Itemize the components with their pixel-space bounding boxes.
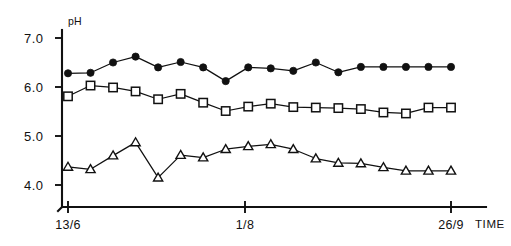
data-point-open-triangle-17 bbox=[424, 166, 433, 174]
data-point-open-square-2 bbox=[86, 81, 94, 89]
data-point-filled-circle-6 bbox=[177, 58, 184, 65]
chart-canvas: pH 7.0 6.0 5.0 4.0 13/6 1/8 26/9 TIME bbox=[0, 0, 511, 246]
series-filled-circle bbox=[64, 53, 454, 85]
data-point-filled-circle-14 bbox=[357, 63, 364, 70]
series-line-open-square bbox=[68, 86, 451, 114]
x-tick-label-start: 13/6 bbox=[55, 218, 81, 232]
x-tick-label-end: 26/9 bbox=[438, 218, 464, 232]
y-tick-label-5: 5.0 bbox=[24, 129, 43, 144]
data-point-open-square-1 bbox=[64, 92, 72, 100]
data-point-open-square-4 bbox=[131, 87, 139, 95]
data-point-filled-circle-2 bbox=[87, 69, 94, 76]
y-tick-label-6: 6.0 bbox=[24, 80, 43, 95]
data-point-open-triangle-1 bbox=[63, 162, 72, 170]
data-point-open-square-3 bbox=[109, 83, 117, 91]
data-point-filled-circle-1 bbox=[64, 70, 71, 77]
x-axis-label: TIME bbox=[475, 218, 505, 230]
data-point-open-square-11 bbox=[289, 103, 297, 111]
data-point-filled-circle-3 bbox=[109, 59, 116, 66]
series-open-triangle bbox=[63, 138, 455, 181]
y-axis-label: pH bbox=[68, 15, 82, 27]
data-point-filled-circle-12 bbox=[312, 59, 319, 66]
data-point-filled-circle-5 bbox=[155, 64, 162, 71]
data-point-filled-circle-18 bbox=[447, 63, 454, 70]
series-line-open-triangle bbox=[68, 142, 451, 177]
data-point-open-triangle-12 bbox=[311, 154, 320, 162]
data-point-open-square-15 bbox=[379, 108, 387, 116]
data-point-filled-circle-4 bbox=[132, 53, 139, 60]
x-axis-spine bbox=[58, 207, 486, 211]
data-point-open-square-12 bbox=[312, 103, 320, 111]
data-point-filled-circle-11 bbox=[290, 67, 297, 74]
data-point-open-square-17 bbox=[424, 103, 432, 111]
data-point-open-triangle-6 bbox=[176, 151, 185, 159]
data-point-open-triangle-4 bbox=[131, 138, 140, 146]
data-point-open-triangle-3 bbox=[108, 151, 117, 159]
data-point-open-square-6 bbox=[176, 90, 184, 98]
data-point-filled-circle-13 bbox=[335, 69, 342, 76]
x-tick-label-middle: 1/8 bbox=[236, 218, 254, 232]
data-point-filled-circle-9 bbox=[245, 64, 252, 71]
data-point-filled-circle-10 bbox=[267, 65, 274, 72]
ph-time-line-chart: pH 7.0 6.0 5.0 4.0 13/6 1/8 26/9 TIME bbox=[0, 0, 511, 246]
series-open-square bbox=[64, 81, 455, 117]
data-point-filled-circle-16 bbox=[402, 63, 409, 70]
data-point-open-triangle-18 bbox=[446, 166, 455, 174]
data-point-filled-circle-7 bbox=[200, 64, 207, 71]
y-tick-label-7: 7.0 bbox=[24, 31, 43, 46]
data-point-open-square-5 bbox=[154, 95, 162, 103]
y-tick-label-4: 4.0 bbox=[24, 178, 43, 193]
data-point-open-square-13 bbox=[334, 104, 342, 112]
series-line-filled-circle bbox=[68, 57, 451, 82]
data-point-open-square-10 bbox=[267, 99, 275, 107]
data-point-filled-circle-17 bbox=[425, 63, 432, 70]
data-point-open-square-14 bbox=[357, 105, 365, 113]
data-point-open-triangle-10 bbox=[266, 140, 275, 148]
data-point-open-square-18 bbox=[447, 103, 455, 111]
data-point-open-square-16 bbox=[402, 109, 410, 117]
data-point-open-square-7 bbox=[199, 98, 207, 106]
data-point-filled-circle-15 bbox=[380, 63, 387, 70]
data-point-open-square-9 bbox=[244, 102, 252, 110]
series-layer bbox=[63, 53, 455, 181]
data-point-filled-circle-8 bbox=[222, 78, 229, 85]
data-point-open-square-8 bbox=[222, 107, 230, 115]
